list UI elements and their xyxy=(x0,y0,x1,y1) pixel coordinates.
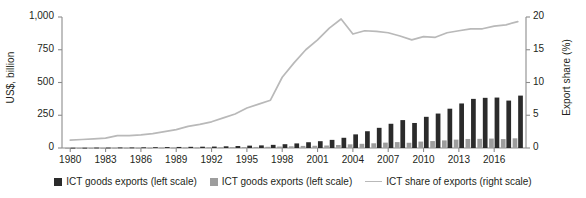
right-axis xyxy=(526,17,530,148)
y-left-tick-500: 500 xyxy=(10,76,54,87)
y-right-tick-15: 15 xyxy=(533,43,563,54)
bottom-axis xyxy=(62,148,526,152)
x-tick-1980: 1980 xyxy=(50,154,90,165)
x-tick-2013: 2013 xyxy=(439,154,479,165)
y-right-tick-0: 0 xyxy=(533,141,563,152)
legend-label: ICT share of exports (right scale) xyxy=(386,176,531,187)
legend-square-icon xyxy=(54,178,62,186)
x-tick-2016: 2016 xyxy=(474,154,514,165)
y-right-tick-10: 10 xyxy=(533,76,563,87)
left-axis xyxy=(58,17,62,148)
x-tick-2001: 2001 xyxy=(298,154,338,165)
x-tick-2007: 2007 xyxy=(368,154,408,165)
legend-line-icon xyxy=(365,181,382,182)
ict-exports-chart: US$, billion Export share (%) 0250500750… xyxy=(0,0,586,198)
y-left-tick-1000: 1,000 xyxy=(10,10,54,21)
legend-label: ICT goods exports (left scale) xyxy=(66,176,196,187)
x-tick-1998: 1998 xyxy=(262,154,302,165)
x-tick-1992: 1992 xyxy=(192,154,232,165)
x-tick-1995: 1995 xyxy=(227,154,267,165)
y-left-tick-0: 0 xyxy=(10,141,54,152)
y-right-tick-20: 20 xyxy=(533,10,563,21)
x-tick-1986: 1986 xyxy=(121,154,161,165)
legend-item-ict-share-of-exports[interactable]: ICT share of exports (right scale) xyxy=(365,176,531,187)
y-left-tick-250: 250 xyxy=(10,108,54,119)
chart-legend: ICT goods exports (left scale)ICT goods … xyxy=(0,176,586,187)
legend-label: ICT goods exports (left scale) xyxy=(222,176,352,187)
x-tick-1983: 1983 xyxy=(86,154,126,165)
y-left-tick-750: 750 xyxy=(10,43,54,54)
plot-area xyxy=(0,0,586,198)
legend-item-ict-goods-exports-dark[interactable]: ICT goods exports (left scale) xyxy=(54,176,196,187)
y-right-tick-5: 5 xyxy=(533,108,563,119)
x-tick-1989: 1989 xyxy=(156,154,196,165)
legend-square-icon xyxy=(210,178,218,186)
x-tick-2004: 2004 xyxy=(333,154,373,165)
legend-item-ict-goods-exports-light[interactable]: ICT goods exports (left scale) xyxy=(210,176,352,187)
x-tick-2010: 2010 xyxy=(404,154,444,165)
